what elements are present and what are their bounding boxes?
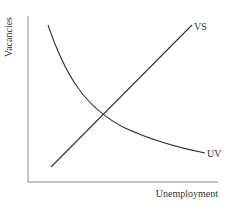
vs-line xyxy=(51,25,192,167)
uv-curve xyxy=(48,25,205,153)
beveridge-curve-diagram: VS UV Unemployment Vacancies xyxy=(0,0,233,208)
x-axis-label: Unemployment xyxy=(156,188,218,199)
uv-label: UV xyxy=(207,148,222,159)
vs-label: VS xyxy=(194,21,207,32)
y-axis-label: Vacancies xyxy=(3,17,14,57)
